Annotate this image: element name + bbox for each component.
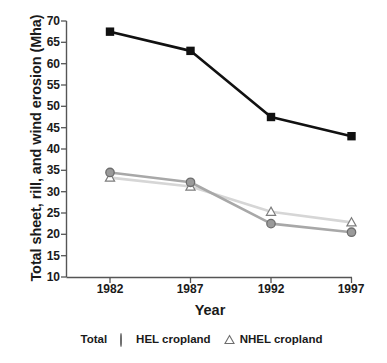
- x-axis-label: Year: [60, 302, 360, 318]
- data-point-hel-1987: [186, 178, 194, 186]
- y-tick-label: 65: [30, 35, 60, 49]
- y-tick-marks: [61, 21, 67, 277]
- data-point-total-1982: [106, 27, 114, 35]
- data-point-total-1987: [186, 47, 194, 55]
- y-tick-label: 55: [30, 78, 60, 92]
- open-triangle-icon: [224, 334, 235, 345]
- data-point-total-1997: [347, 132, 355, 140]
- y-tick-label: 45: [30, 121, 60, 135]
- series-line-nhel-cropland: [110, 178, 352, 223]
- y-tick-label: 70: [30, 14, 60, 28]
- filled-circle-icon: [120, 334, 131, 345]
- data-point-hel-1997: [347, 228, 355, 236]
- erosion-line-chart: Total sheet, rill, and wind erosion (Mha…: [0, 0, 387, 363]
- y-tick-label: 30: [30, 185, 60, 199]
- legend-item-nhel-cropland: NHEL cropland: [224, 333, 323, 345]
- series-line-total: [110, 32, 352, 137]
- y-tick-label: 20: [30, 227, 60, 241]
- x-tick-label: 1997: [326, 282, 376, 296]
- chart-legend: Total HEL cropland NHEL cropland: [0, 333, 387, 345]
- y-tick-label: 10: [30, 270, 60, 284]
- data-point-hel-1982: [106, 168, 114, 176]
- x-tick-marks: [110, 278, 352, 284]
- legend-item-hel-cropland: HEL cropland: [120, 333, 211, 345]
- legend-label-nhel-cropland: NHEL cropland: [240, 333, 323, 345]
- y-tick-label: 50: [30, 99, 60, 113]
- y-tick-label: 25: [30, 206, 60, 220]
- x-tick-label: 1992: [246, 282, 296, 296]
- y-tick-label: 40: [30, 142, 60, 156]
- legend-label-hel-cropland: HEL cropland: [136, 333, 211, 345]
- data-point-total-1992: [267, 113, 275, 121]
- legend-item-total: Total: [64, 333, 107, 345]
- x-tick-label: 1982: [85, 282, 135, 296]
- y-tick-label: 15: [30, 249, 60, 263]
- data-point-hel-1992: [267, 219, 275, 227]
- filled-square-icon: [64, 334, 75, 345]
- legend-label-total: Total: [80, 333, 107, 345]
- y-tick-label: 35: [30, 163, 60, 177]
- y-tick-label: 60: [30, 57, 60, 71]
- x-tick-label: 1987: [165, 282, 215, 296]
